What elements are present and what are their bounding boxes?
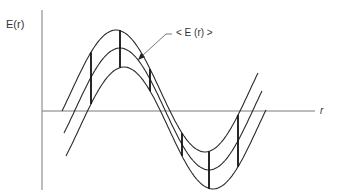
annotation-leader	[142, 34, 172, 56]
mean-curve	[64, 48, 262, 170]
y-axis-label: E(r)	[6, 18, 24, 30]
x-axis-label: r	[320, 105, 324, 116]
mean-annotation: < E (r) >	[176, 27, 213, 38]
diagram-canvas: E(r) r < E (r) >	[0, 0, 339, 196]
lower-curve	[66, 67, 266, 189]
